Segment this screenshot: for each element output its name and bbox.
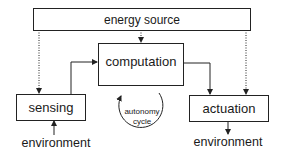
computation-label: computation bbox=[106, 54, 177, 69]
environment-output-label: environment bbox=[183, 135, 273, 149]
actuation-label: actuation bbox=[203, 101, 256, 116]
sensing-box: sensing bbox=[16, 94, 86, 121]
cycle-line1: autonomy bbox=[115, 107, 169, 117]
energy-source-box: energy source bbox=[33, 8, 251, 31]
computation-box: computation bbox=[98, 43, 184, 86]
environment-input-label: environment bbox=[12, 136, 100, 150]
autonomy-cycle-label: autonomy cycle bbox=[115, 107, 169, 127]
actuation-box: actuation bbox=[189, 95, 269, 122]
cycle-line2: cycle bbox=[115, 117, 169, 127]
sensing-label: sensing bbox=[29, 100, 74, 115]
energy-source-label: energy source bbox=[104, 13, 180, 27]
